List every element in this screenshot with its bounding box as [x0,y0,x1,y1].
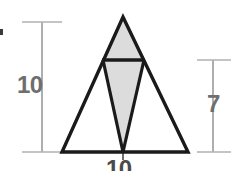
edge-artifact-mark [0,29,3,35]
shaded-upper-triangle [104,18,143,60]
shaded-lower-triangle [104,61,143,151]
dimension-label-height-right: 7 [207,92,220,116]
dimension-label-height-left: 10 [17,73,43,97]
dimension-label-base-bottom: 10 [106,157,132,171]
geometry-figure: 10 7 10 [0,0,237,171]
